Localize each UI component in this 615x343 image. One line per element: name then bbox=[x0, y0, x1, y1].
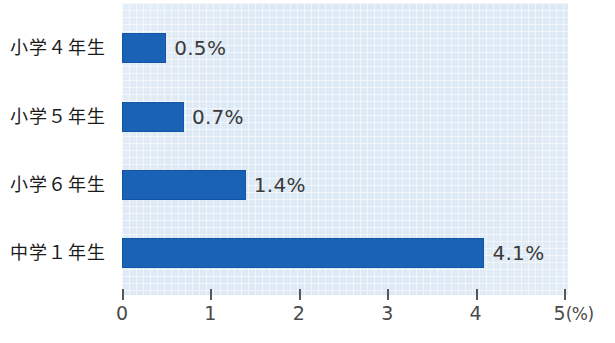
x-tick-label-2: 2 bbox=[293, 302, 305, 324]
x-axis-unit-label: (%) bbox=[566, 304, 594, 324]
x-tick-3 bbox=[387, 289, 389, 300]
bar-1 bbox=[122, 102, 184, 132]
x-tick-4 bbox=[476, 289, 478, 300]
chart-row: 小学６年生 1.4% bbox=[0, 168, 615, 202]
x-tick-label-5-with-unit: 5(%) bbox=[554, 302, 594, 324]
bar-chart: 小学４年生 0.5% 小学５年生 0.7% 小学６年生 1.4% 中学１年生 4… bbox=[0, 0, 615, 343]
x-tick-1 bbox=[210, 289, 212, 300]
category-label-2: 小学６年生 bbox=[0, 168, 114, 202]
bar-value-label-0: 0.5% bbox=[174, 31, 226, 65]
x-tick-label-1: 1 bbox=[204, 302, 216, 324]
bar-0 bbox=[122, 33, 166, 63]
x-tick-0 bbox=[122, 289, 124, 300]
x-axis-ticks bbox=[122, 289, 568, 301]
bar-2 bbox=[122, 170, 246, 200]
bar-3 bbox=[122, 238, 484, 268]
x-axis-labels: 0 1 2 3 4 5(%) bbox=[0, 302, 615, 330]
category-label-0: 小学４年生 bbox=[0, 31, 114, 65]
category-label-1: 小学５年生 bbox=[0, 100, 114, 134]
x-tick-label-5: 5 bbox=[554, 302, 566, 324]
x-tick-2 bbox=[299, 289, 301, 300]
bar-value-label-1: 0.7% bbox=[192, 100, 244, 134]
bar-value-label-2: 1.4% bbox=[254, 168, 306, 202]
category-label-3: 中学１年生 bbox=[0, 236, 114, 270]
x-tick-label-4: 4 bbox=[470, 302, 482, 324]
x-tick-5 bbox=[564, 289, 566, 300]
x-tick-label-3: 3 bbox=[381, 302, 393, 324]
chart-row: 中学１年生 4.1% bbox=[0, 236, 615, 270]
x-tick-label-0: 0 bbox=[116, 302, 128, 324]
chart-row: 小学４年生 0.5% bbox=[0, 31, 615, 65]
chart-row: 小学５年生 0.7% bbox=[0, 100, 615, 134]
bar-value-label-3: 4.1% bbox=[492, 236, 544, 270]
